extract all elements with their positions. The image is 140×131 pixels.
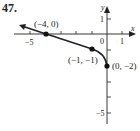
point-neg4-0 [43, 31, 48, 36]
plot: (−4, 0) (−1, −1) (0, −2) x y −5 0 1 1 −5 [0, 0, 140, 131]
y-axis-arrow-icon [104, 6, 110, 13]
point-0-neg2 [104, 63, 109, 68]
point-neg1-neg1 [89, 46, 94, 51]
y-tick-label-neg5: −5 [96, 109, 105, 118]
label-p1: (−4, 0) [34, 19, 59, 29]
graph-figure: 47. (−4, 0) (−1, −1 [0, 0, 140, 131]
x-tick-label-1: 1 [120, 37, 124, 46]
origin-label: 0 [100, 37, 104, 46]
label-p2: (−1, −1) [68, 55, 98, 65]
label-p3: (0, −2) [112, 61, 137, 71]
y-tick-label-1: 1 [100, 15, 104, 24]
x-axis-label: x [130, 24, 135, 33]
y-axis-label: y [100, 3, 105, 12]
curve-arrow-icon [19, 24, 26, 30]
x-tick-label-neg5: −5 [25, 38, 34, 47]
